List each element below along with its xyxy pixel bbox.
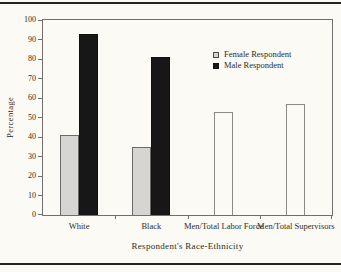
bar-white-female [60, 135, 79, 215]
y-tick-label: 20 [16, 171, 36, 181]
y-tick-mark [38, 98, 43, 99]
bar-black-male [151, 57, 170, 215]
y-tick-mark [38, 59, 43, 60]
x-tick-mark [115, 215, 116, 219]
y-tick-mark [38, 78, 43, 79]
y-tick-label: 90 [16, 35, 36, 45]
y-tick-label: 70 [16, 74, 36, 84]
plot-area: Female RespondentMale Respondent 0102030… [42, 19, 333, 216]
top-rule [0, 2, 341, 4]
y-tick-mark [38, 20, 43, 21]
legend-item: Male Respondent [213, 61, 291, 70]
bar-men-total-labor-force-open [214, 112, 233, 215]
x-category-label: Men/Total Labor Force [184, 221, 264, 231]
y-tick-mark [38, 176, 43, 177]
y-tick-label: 10 [16, 191, 36, 201]
x-category-label: White [39, 221, 119, 231]
male-swatch-icon [213, 63, 219, 69]
legend: Female RespondentMale Respondent [213, 50, 291, 72]
bar-men-total-supervisors-open [286, 104, 305, 215]
y-tick-label: 60 [16, 93, 36, 103]
bottom-rule [0, 263, 341, 265]
y-tick-label: 100 [16, 15, 36, 25]
y-tick-mark [38, 39, 43, 40]
bar-white-male [79, 34, 98, 215]
y-tick-label: 40 [16, 132, 36, 142]
x-axis-title: Respondent's Race-Ethnicity [42, 241, 333, 251]
y-tick-label: 50 [16, 113, 36, 123]
x-tick-mark [331, 215, 332, 219]
y-tick-label: 30 [16, 152, 36, 162]
x-tick-mark [188, 215, 189, 219]
legend-item: Female Respondent [213, 50, 291, 59]
female-swatch-icon [213, 52, 219, 58]
y-tick-mark [38, 117, 43, 118]
y-tick-label: 80 [16, 54, 36, 64]
y-tick-label: 0 [16, 210, 36, 220]
legend-label: Female Respondent [224, 50, 291, 59]
y-tick-mark [38, 195, 43, 196]
x-category-label: Men/Total Supervisors [256, 221, 336, 231]
y-tick-mark [38, 214, 43, 215]
y-tick-mark [38, 137, 43, 138]
bar-black-female [132, 147, 151, 215]
y-axis-title: Percentage [3, 19, 16, 216]
y-tick-mark [38, 156, 43, 157]
legend-label: Male Respondent [224, 61, 284, 70]
x-category-label: Black [111, 221, 191, 231]
x-tick-mark [260, 215, 261, 219]
